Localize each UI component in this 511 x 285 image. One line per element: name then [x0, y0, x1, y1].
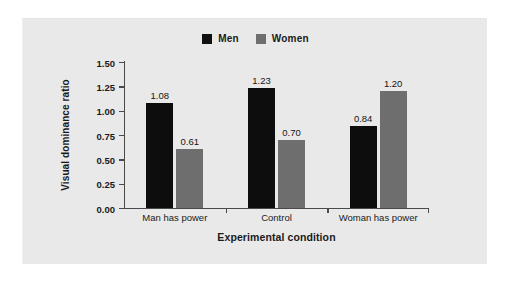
y-axis-title: Visual dominance ratio — [58, 62, 72, 208]
chart-legend: Men Women — [0, 34, 511, 44]
bar-women: 0.70 — [278, 140, 305, 208]
bar-value-label: 0.70 — [282, 127, 301, 138]
x-axis-category-label: Man has power — [124, 212, 226, 223]
bar-men: 1.08 — [146, 103, 173, 208]
y-axis-tick-label: 0.50 — [97, 154, 116, 165]
x-axis-category-label: Woman has power — [327, 212, 429, 223]
chart-figure: Men Women Visual dominance ratio 0.000.2… — [0, 0, 511, 285]
plot-area: 0.000.250.500.751.001.251.501.080.611.23… — [124, 62, 429, 208]
y-axis-tick-label: 0.25 — [97, 179, 116, 190]
bar-women: 0.61 — [176, 149, 203, 208]
legend-label-women: Women — [272, 34, 309, 44]
y-axis-tick-label: 1.50 — [97, 57, 116, 68]
x-axis-line — [124, 208, 429, 209]
bar-women: 1.20 — [380, 91, 407, 208]
y-axis-tick-label: 0.00 — [97, 203, 116, 214]
bar-value-label: 0.84 — [354, 113, 373, 124]
y-axis-line — [124, 61, 125, 209]
bar-men: 1.23 — [248, 88, 275, 208]
black-square-icon — [202, 34, 212, 44]
legend-entry-women: Women — [256, 34, 309, 44]
y-axis-tick-label: 1.25 — [97, 81, 116, 92]
y-axis-tick-label: 1.00 — [97, 106, 116, 117]
legend-entry-men: Men — [202, 34, 239, 44]
bar-men: 0.84 — [350, 126, 377, 208]
gray-square-icon — [256, 34, 266, 44]
bar-value-label: 1.23 — [252, 75, 271, 86]
legend-label-men: Men — [218, 34, 239, 44]
bar-value-label: 0.61 — [181, 136, 200, 147]
y-axis-tick-label: 0.75 — [97, 130, 116, 141]
x-axis-category-label: Control — [226, 212, 328, 223]
x-axis-title: Experimental condition — [124, 231, 429, 243]
bar-value-label: 1.20 — [384, 78, 403, 89]
bar-value-label: 1.08 — [151, 90, 170, 101]
